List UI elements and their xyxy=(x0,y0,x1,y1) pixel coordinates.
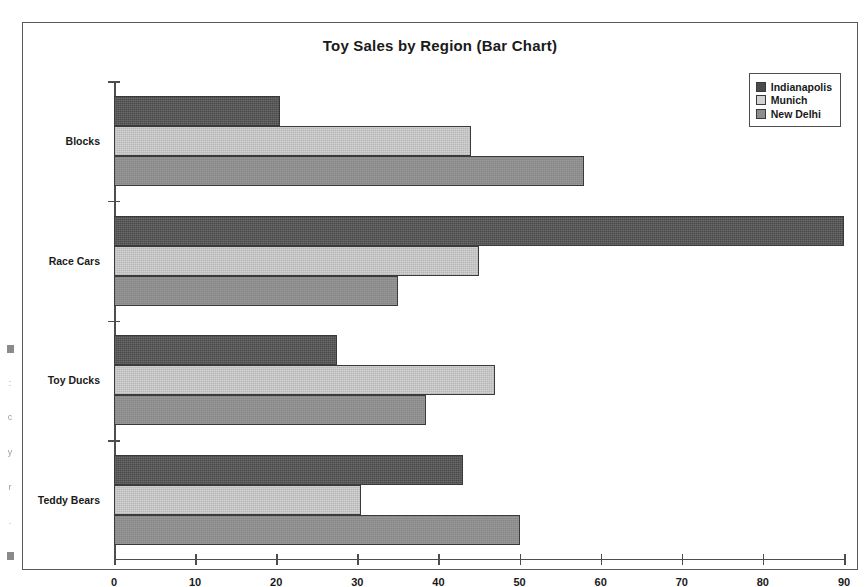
margin-mark-3: y xyxy=(8,448,13,457)
margin-mark-2: c xyxy=(8,413,13,422)
legend-label-indianapolis: Indianapolis xyxy=(771,81,832,93)
margin-mark-4: r xyxy=(9,483,12,492)
margin-mark-bottom xyxy=(7,552,14,560)
legend-swatch-icon-newdelhi xyxy=(756,109,766,119)
chart-title: Toy Sales by Region (Bar Chart) xyxy=(23,37,857,54)
legend-item-indianapolis: Indianapolis xyxy=(756,81,832,93)
bar-blocks-indianapolis xyxy=(114,96,280,126)
plot-area: 0102030405060708090 BlocksRace CarsToy D… xyxy=(114,81,844,560)
bar-toy-ducks-munich xyxy=(114,365,495,395)
bar-teddy-bears-new-delhi xyxy=(114,515,520,545)
x-tick-label-30: 30 xyxy=(351,576,363,587)
category-label-teddy-bears: Teddy Bears xyxy=(38,494,100,506)
bar-race-cars-new-delhi xyxy=(114,276,398,306)
x-tick-label-20: 20 xyxy=(270,576,282,587)
category-label-blocks: Blocks xyxy=(66,135,100,147)
legend-label-newdelhi: New Delhi xyxy=(771,108,821,120)
bar-teddy-bears-munich xyxy=(114,485,361,515)
bar-group-toy-ducks: Toy Ducks xyxy=(114,321,844,441)
category-label-toy-ducks: Toy Ducks xyxy=(48,374,100,386)
margin-mark-top xyxy=(7,345,14,353)
legend-item-newdelhi: New Delhi xyxy=(756,108,832,120)
legend-item-munich: Munich xyxy=(756,94,832,106)
x-tick-label-80: 80 xyxy=(757,576,769,587)
x-tick-label-60: 60 xyxy=(595,576,607,587)
x-tick-label-10: 10 xyxy=(189,576,201,587)
x-tick-label-70: 70 xyxy=(676,576,688,587)
bar-group-race-cars: Race Cars xyxy=(114,201,844,321)
bar-blocks-new-delhi xyxy=(114,156,584,186)
bar-toy-ducks-new-delhi xyxy=(114,395,426,425)
x-tick-label-0: 0 xyxy=(111,576,117,587)
bar-race-cars-munich xyxy=(114,246,479,276)
margin-mark-1: : xyxy=(9,379,12,388)
x-tick-label-40: 40 xyxy=(432,576,444,587)
chart-frame: Toy Sales by Region (Bar Chart) 01020304… xyxy=(22,22,858,570)
category-label-race-cars: Race Cars xyxy=(49,255,100,267)
bar-group-blocks: Blocks xyxy=(114,81,844,201)
x-tick-90 xyxy=(844,554,846,565)
bar-toy-ducks-indianapolis xyxy=(114,335,337,365)
x-tick-label-90: 90 xyxy=(838,576,850,587)
legend-swatch-icon-indianapolis xyxy=(756,82,766,92)
x-tick-label-50: 50 xyxy=(513,576,525,587)
legend-label-munich: Munich xyxy=(771,94,808,106)
margin-scan-artifacts: : c y r . xyxy=(2,345,18,560)
legend-swatch-icon-munich xyxy=(756,95,766,105)
bar-teddy-bears-indianapolis xyxy=(114,455,463,485)
bar-blocks-munich xyxy=(114,126,471,156)
bar-group-teddy-bears: Teddy Bears xyxy=(114,440,844,560)
chart-legend: Indianapolis Munich New Delhi xyxy=(749,73,841,127)
margin-mark-5: . xyxy=(9,517,12,526)
bar-race-cars-indianapolis xyxy=(114,216,844,246)
